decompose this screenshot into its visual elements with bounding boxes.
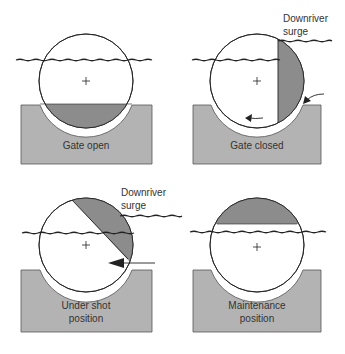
panel-label: position <box>240 313 274 324</box>
surge-label: surge <box>283 26 308 37</box>
panel-under-shot: Downriver surge Under shot position <box>21 187 182 332</box>
surge-label: surge <box>121 200 146 211</box>
panel-label: Under shot <box>62 300 111 311</box>
panel-gate-closed: Downriver surge Gate closed <box>192 13 332 164</box>
gate-positions-diagram: Gate open Downriver surge Gate closed <box>0 0 345 354</box>
surge-label: Downriver <box>283 13 329 24</box>
surge-water-surface <box>278 40 332 42</box>
panel-label: position <box>69 313 103 324</box>
surge-water-surface <box>120 215 182 217</box>
panel-label: Maintenance <box>228 300 286 311</box>
surge-label: Downriver <box>121 187 167 198</box>
panel-maintenance: Maintenance position <box>190 190 326 332</box>
inflow-arrow-icon <box>303 94 324 104</box>
panel-label: Gate closed <box>230 140 283 151</box>
panel-gate-open: Gate open <box>16 34 152 164</box>
panel-label: Gate open <box>63 140 110 151</box>
